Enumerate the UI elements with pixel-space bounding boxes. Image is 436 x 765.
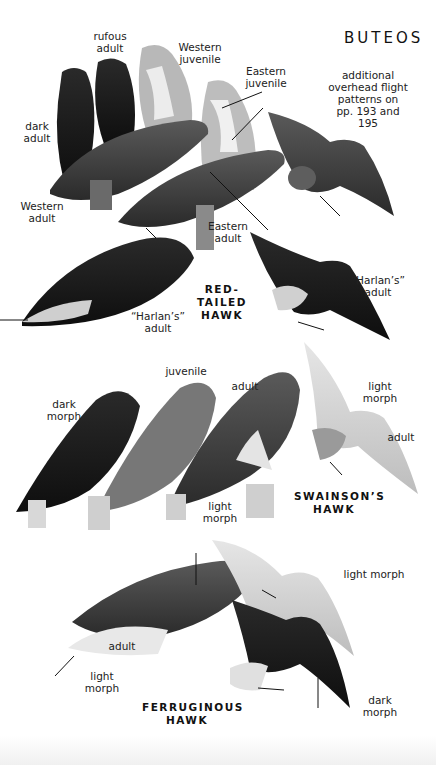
label-eastern-adult: Eastern adult [208,220,248,244]
cross-reference-note: additional overhead flight patterns on p… [327,69,409,129]
label-dark-morph-flight: dark morph [362,694,398,718]
page-title: BUTEOS [344,29,423,47]
label-western-juvenile: Western juvenile [176,41,224,65]
species-name-red-tailed-hawk: RED-TAILED HAWK [186,283,258,322]
label-light-morph-perched: light morph [202,500,238,524]
species-name-swainsons-hawk: SWAINSON’S HAWK [294,490,374,516]
label-adult-perched: adult [228,380,262,392]
page-bottom-edge [0,735,436,765]
species-name-ferruginous-hawk: FERRUGINOUS HAWK [142,701,232,727]
label-eastern-juvenile: Eastern juvenile [244,65,288,89]
label-light-morph-flight: light morph [334,568,414,580]
label-rufous-adult: rufous adult [90,30,130,54]
label-dark-morph: dark morph [44,398,84,422]
field-guide-page: BUTEOS additional overhead flight patter… [0,0,436,765]
label-dark-adult: dark adult [22,120,52,144]
label-harlans-adult-flight: “Harlan’s” adult [350,274,406,298]
label-harlans-adult-perched: “Harlan’s” adult [130,310,186,334]
label-adult-flight: adult [384,431,418,443]
label-light-morph-flight: light morph [362,380,398,404]
label-light-morph-perched: light morph [84,670,120,694]
label-adult: adult [104,640,140,652]
label-western-adult: Western adult [20,200,64,224]
label-juvenile: juvenile [164,365,208,377]
